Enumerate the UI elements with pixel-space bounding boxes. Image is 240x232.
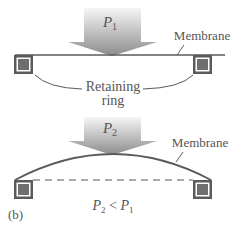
pressure-arrow-p1 bbox=[68, 8, 157, 56]
membrane-label-a: Membrane bbox=[174, 28, 231, 43]
ring-leader-right bbox=[143, 75, 193, 89]
retaining-ring-label-line1: Retaining bbox=[86, 79, 140, 94]
membrane-label-b: Membrane bbox=[172, 135, 229, 150]
retaining-ring-left-b bbox=[14, 180, 33, 199]
membrane-bowed bbox=[15, 154, 211, 180]
panel-b: P2 Membrane P2 < P1 (b) bbox=[8, 117, 228, 222]
membrane-leader-b bbox=[176, 152, 183, 162]
pressure-membrane-diagram: P1 Retaining ring Membrane P2 bbox=[0, 0, 240, 232]
ring-leader-left bbox=[35, 75, 82, 89]
retaining-ring-right-b bbox=[193, 180, 212, 199]
panel-a: P1 Retaining ring Membrane bbox=[14, 8, 230, 108]
retaining-ring-left bbox=[14, 55, 33, 74]
panel-tag-b: (b) bbox=[8, 207, 23, 222]
retaining-ring-right bbox=[193, 55, 212, 74]
membrane-leader-a bbox=[177, 45, 184, 55]
pressure-relation: P2 < P1 bbox=[91, 198, 133, 215]
retaining-ring-label-line2: ring bbox=[102, 93, 125, 108]
